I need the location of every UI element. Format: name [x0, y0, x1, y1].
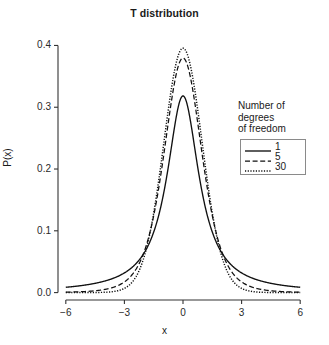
legend-line-sample-dotted — [244, 162, 272, 172]
x-axis-label: x — [0, 325, 329, 336]
legend-item-df-30[interactable]: 30 — [244, 162, 302, 172]
y-tick-label: 0.4 — [8, 39, 51, 50]
y-tick-label: 0.2 — [8, 163, 51, 174]
legend: Number ofdegreesof freedom 1530 — [238, 100, 324, 175]
legend-label: 1 — [275, 142, 281, 152]
chart-figure: T distribution 0.00.10.20.30.4 −6−3036 x… — [0, 0, 329, 345]
x-tick-label: −6 — [46, 307, 86, 318]
y-axis-label: P(x) — [2, 138, 13, 178]
legend-label: 30 — [275, 162, 286, 172]
x-tick-label: −3 — [104, 307, 144, 318]
y-tick-label: 0.1 — [8, 225, 51, 236]
legend-label: 5 — [275, 152, 281, 162]
x-tick-label: 0 — [163, 307, 203, 318]
legend-item-df-1[interactable]: 1 — [244, 142, 302, 152]
legend-box: 1530 — [240, 139, 306, 175]
legend-line-sample-dashed — [244, 152, 272, 162]
legend-title: Number ofdegreesof freedom — [238, 100, 324, 135]
y-tick-label: 0.0 — [8, 287, 51, 298]
y-tick-label: 0.3 — [8, 101, 51, 112]
legend-item-df-5[interactable]: 5 — [244, 152, 302, 162]
legend-line-sample-solid — [244, 142, 272, 152]
legend-title-line: degrees — [238, 112, 324, 124]
legend-title-line: Number of — [238, 100, 324, 112]
x-tick-label: 3 — [222, 307, 262, 318]
x-tick-label: 6 — [280, 307, 320, 318]
legend-title-line: of freedom — [238, 123, 324, 135]
